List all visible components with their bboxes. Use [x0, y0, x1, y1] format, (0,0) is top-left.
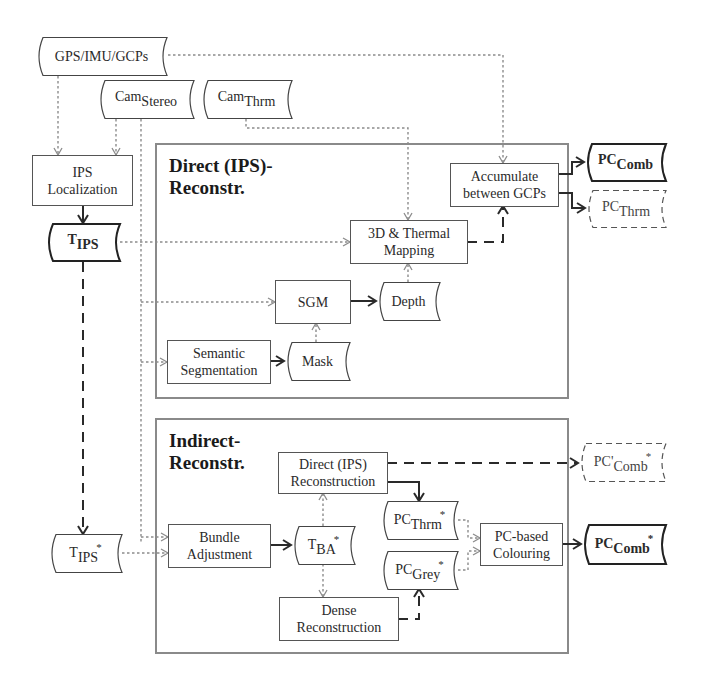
indirect-title-line1: Indirect- — [169, 430, 245, 452]
ips-localization-box[interactable]: IPSLocalization — [32, 155, 133, 206]
thermal-mapping-box[interactable]: 3D & ThermalMapping — [350, 220, 468, 264]
accumulate-between-gcps-box[interactable]: Accumulatebetween GCPs — [450, 163, 559, 207]
pc-thrm-output[interactable]: PCThrm — [585, 190, 667, 228]
dense-reconstruction-box[interactable]: DenseReconstruction — [279, 597, 399, 641]
t-ips-data[interactable]: TIPS — [45, 223, 121, 262]
direct-title-line2: Reconstr. — [169, 177, 273, 199]
pc-comb-prime-star-label: PC'Comb* — [594, 450, 651, 475]
pc-thrm-label: PCThrm — [602, 199, 650, 220]
indirect-group-title: Indirect- Reconstr. — [169, 430, 245, 474]
direct-group-title: Direct (IPS)- Reconstr. — [169, 155, 273, 199]
indirect-title-line2: Reconstr. — [169, 452, 245, 474]
pc-thrm-star-data[interactable]: PCThrm* — [380, 501, 459, 540]
sgm-box[interactable]: SGM — [275, 280, 351, 324]
depth-label: Depth — [391, 294, 425, 310]
pc-comb-label: PCComb — [598, 152, 653, 173]
direct-ips-reconstruction-box[interactable]: Direct (IPS)Reconstruction — [278, 452, 388, 494]
t-ba-star-data[interactable]: TBA* — [291, 526, 356, 565]
direct-title-line1: Direct (IPS)- — [169, 155, 273, 177]
cam-stereo-input[interactable]: CamStereo — [97, 80, 195, 119]
mask-data[interactable]: Mask — [284, 342, 351, 381]
bundle-adjustment-box[interactable]: BundleAdjustment — [168, 524, 271, 568]
pc-comb-star-label: PCComb* — [595, 532, 654, 557]
gps-imu-gcps-input[interactable]: GPS/IMU/GCPs — [35, 37, 168, 76]
pc-grey-star-data[interactable]: PCGrey* — [380, 551, 459, 590]
t-ips-star-data[interactable]: TIPS* — [48, 534, 123, 573]
mask-label: Mask — [302, 354, 333, 370]
t-ips-label: TIPS — [67, 232, 98, 253]
pc-comb-prime-star-output[interactable]: PC'Comb* — [578, 443, 667, 482]
pc-comb-star-output[interactable]: PCComb* — [581, 524, 667, 565]
pc-grey-star-label: PCGrey* — [395, 558, 444, 583]
t-ips-star-label: TIPS* — [69, 541, 101, 566]
gps-label: GPS/IMU/GCPs — [55, 49, 148, 65]
pc-thrm-star-label: PCThrm* — [394, 508, 446, 533]
cam-thermal-label: CamThrm — [218, 89, 276, 110]
cam-stereo-label: CamStereo — [115, 89, 177, 110]
pc-based-colouring-box[interactable]: PC-basedColouring — [480, 523, 563, 566]
depth-data[interactable]: Depth — [376, 282, 441, 321]
semantic-segmentation-box[interactable]: SemanticSegmentation — [167, 340, 271, 384]
cam-thermal-input[interactable]: CamThrm — [200, 80, 293, 119]
t-ba-star-label: TBA* — [308, 533, 340, 558]
pc-comb-output[interactable]: PCComb — [584, 143, 667, 182]
